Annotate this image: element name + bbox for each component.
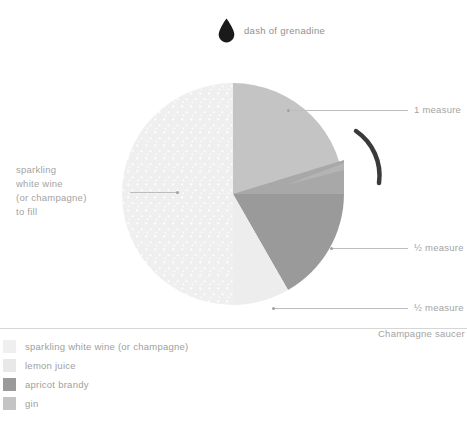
legend-swatch-lemon-juice [3,359,16,372]
callout-line-2: white wine [16,177,126,191]
legend-item-sparkling-white-wine: sparkling white wine (or champagne) [3,337,188,356]
legend-item-apricot-brandy: apricot brandy [3,375,188,394]
grenadine-label: dash of grenadine [244,25,325,36]
legend-item-lemon-juice: lemon juice [3,356,188,375]
leader-line-sparkling-white-wine [130,192,178,193]
horizontal-divider [0,328,467,329]
leader-line-lemon-juice [275,308,408,309]
leader-line-gin [289,110,408,111]
legend-swatch-apricot-brandy [3,378,16,391]
callout-gin-measure: 1 measure [414,103,461,117]
legend-item-gin: gin [3,394,188,413]
callout-apricot-brandy-measure: ½ measure [414,241,464,255]
legend-swatch-sparkling-white-wine [3,340,16,353]
legend-label-gin: gin [25,398,38,409]
legend-label-sparkling-white-wine: sparkling white wine (or champagne) [25,341,188,352]
grenadine-note: dash of grenadine [218,18,325,43]
legend-label-apricot-brandy: apricot brandy [25,379,89,390]
leader-dot-sparkling-white-wine [176,191,179,194]
legend: sparkling white wine (or champagne) lemo… [3,337,188,413]
callout-line-4: to fill [16,205,126,219]
callout-glassware: Champagne saucer [378,327,465,341]
callout-lemon-juice-measure: ½ measure [414,301,464,315]
droplet-icon [218,18,235,43]
leader-line-apricot-brandy [333,248,408,249]
bubble-texture [122,83,233,305]
callout-line-3: (or champagne) [16,191,126,205]
citrus-twist-garnish-icon [356,131,380,183]
legend-label-lemon-juice: lemon juice [25,360,76,371]
legend-swatch-gin [3,397,16,410]
callout-line-1: sparkling [16,163,126,177]
callout-sparkling-white-wine: sparkling white wine (or champagne) to f… [16,163,126,219]
